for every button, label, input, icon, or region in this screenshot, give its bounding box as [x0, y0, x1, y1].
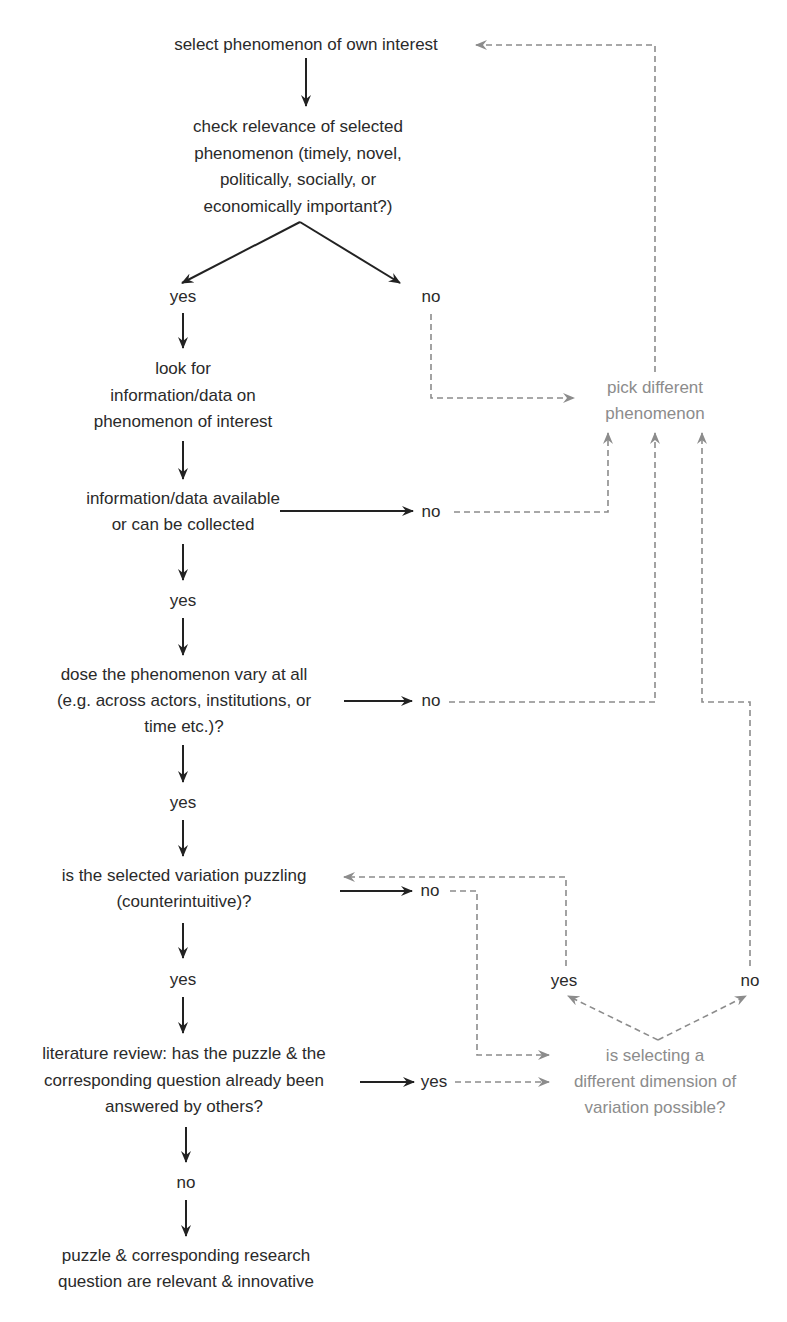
dashed-dimension-no-to-pick	[702, 433, 750, 966]
label-puzzling-yes: yes	[170, 967, 196, 992]
node-variation-puzzling-line2: (counterintuitive)?	[116, 889, 251, 914]
node-variation-puzzling-line1: is the selected variation puzzling	[62, 863, 307, 888]
node-relevant-innovative-line1: puzzle & corresponding research	[62, 1243, 311, 1268]
label-dimension-yes: yes	[551, 968, 577, 993]
node-different-dimension-line1: is selecting a	[606, 1043, 704, 1068]
dashed-dimension-to-yes	[568, 996, 658, 1040]
node-relevant-innovative-line2: question are relevant & innovative	[58, 1269, 314, 1294]
node-check-relevance-line2: phenomenon (timely, novel,	[194, 141, 402, 166]
node-look-for-data-line1: look for	[155, 356, 211, 381]
node-pick-different-line1: pick different	[607, 375, 703, 400]
dashed-dimension-to-no	[658, 996, 746, 1040]
dashed-pick-to-start	[476, 45, 655, 372]
dashed-vary-no-to-pick	[449, 433, 655, 702]
dashed-available-no-to-pick	[454, 433, 608, 512]
node-check-relevance-line1: check relevance of selected	[193, 114, 403, 139]
node-pick-different-line2: phenomenon	[605, 401, 704, 426]
dashed-relevance-no-to-pick	[431, 314, 574, 398]
label-relevance-no: no	[422, 284, 441, 309]
label-available-no: no	[422, 499, 441, 524]
flowchart-connectors	[0, 0, 787, 1322]
node-literature-review-line2: corresponding question already been	[44, 1068, 324, 1093]
label-available-yes: yes	[170, 588, 196, 613]
node-check-relevance-line4: economically important?)	[204, 194, 393, 219]
label-relevance-yes: yes	[170, 284, 196, 309]
dashed-puzzling-no-to-dimension	[450, 891, 549, 1055]
node-data-available-line1: information/data available	[86, 486, 280, 511]
node-look-for-data-line2: information/data on	[110, 383, 256, 408]
node-literature-review-line1: literature review: has the puzzle & the	[42, 1041, 325, 1066]
arrow-relevance-to-yes	[182, 222, 300, 283]
label-vary-no: no	[422, 688, 441, 713]
node-select-phenomenon: select phenomenon of own interest	[174, 32, 438, 57]
label-dimension-no: no	[741, 968, 760, 993]
node-look-for-data-line3: phenomenon of interest	[94, 409, 273, 434]
node-check-relevance-line3: politically, socially, or	[220, 167, 376, 192]
arrow-relevance-to-no	[300, 222, 400, 283]
label-puzzling-no: no	[421, 878, 440, 903]
node-phenomenon-vary-line2: (e.g. across actors, institutions, or	[57, 688, 311, 713]
label-lit-yes: yes	[421, 1069, 447, 1094]
label-vary-yes: yes	[170, 790, 196, 815]
node-literature-review-line3: answered by others?	[105, 1094, 263, 1119]
node-different-dimension-line3: variation possible?	[585, 1095, 726, 1120]
label-lit-no: no	[177, 1170, 196, 1195]
node-phenomenon-vary-line3: time etc.)?	[144, 714, 223, 739]
node-phenomenon-vary-line1: dose the phenomenon vary at all	[61, 662, 308, 687]
node-data-available-line2: or can be collected	[112, 512, 255, 537]
node-different-dimension-line2: different dimension of	[574, 1069, 736, 1094]
